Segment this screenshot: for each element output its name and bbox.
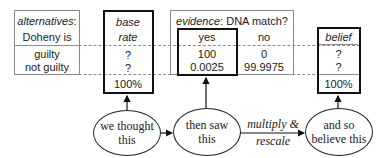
node-then-saw-this: then sawthis <box>173 108 241 156</box>
node-2-line1: then saw <box>186 118 228 132</box>
node-2-line2: this <box>198 132 215 146</box>
node-3-line1: and so <box>323 118 354 132</box>
edge-label-ampersand: & <box>286 117 298 131</box>
edge-label-rescale: rescale <box>244 134 302 148</box>
node-and-so-believe-this: and sobelieve this <box>305 108 373 156</box>
node-1-line1: we thought <box>100 119 154 133</box>
node-1-line2: this <box>118 133 135 147</box>
node-we-thought-this: we thoughtthis <box>93 110 161 156</box>
node-3-line2: believe this <box>312 132 367 146</box>
edge-label-multiply: multiply <box>247 117 286 131</box>
edge-label-multiply-rescale: multiply & <box>244 117 302 131</box>
